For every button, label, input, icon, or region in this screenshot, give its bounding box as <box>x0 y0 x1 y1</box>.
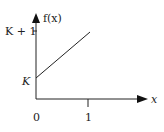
x-axis-label: x <box>151 93 158 106</box>
y-tick-bottom-label: K <box>21 75 31 88</box>
y-tick-top-label: K + 1 <box>5 25 36 38</box>
function-line <box>36 32 90 78</box>
y-axis-arrow-icon <box>32 13 40 23</box>
function-graph: f(x) x K + 1 K 0 1 <box>0 0 164 132</box>
x-axis-arrow-icon <box>137 95 148 103</box>
x-tick-origin-label: 0 <box>33 111 40 124</box>
y-axis-label: f(x) <box>43 12 62 25</box>
x-tick-one-label: 1 <box>85 111 92 124</box>
